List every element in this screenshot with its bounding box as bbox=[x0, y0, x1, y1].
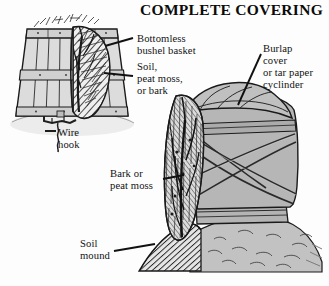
diagram-page: COMPLETE COVERING bbox=[0, 0, 329, 286]
label-burlap-cover: Burlap cover or tar paper cyclinder bbox=[263, 43, 313, 90]
label-wire-hook: Wire hook bbox=[58, 127, 80, 151]
burlap-cylinder-figure bbox=[139, 82, 322, 272]
soil-mound-light bbox=[190, 217, 322, 272]
basket-top-straw bbox=[34, 14, 99, 27]
label-soil-peat-bark: Soil, peat moss, or bark bbox=[137, 61, 183, 97]
label-bark-or-peat-moss: Bark or peat moss bbox=[110, 168, 153, 192]
label-bushel-basket: Bottomless bushel basket bbox=[137, 33, 196, 57]
label-soil-mound: Soil mound bbox=[80, 238, 110, 262]
leader-soil-mound bbox=[114, 244, 155, 251]
